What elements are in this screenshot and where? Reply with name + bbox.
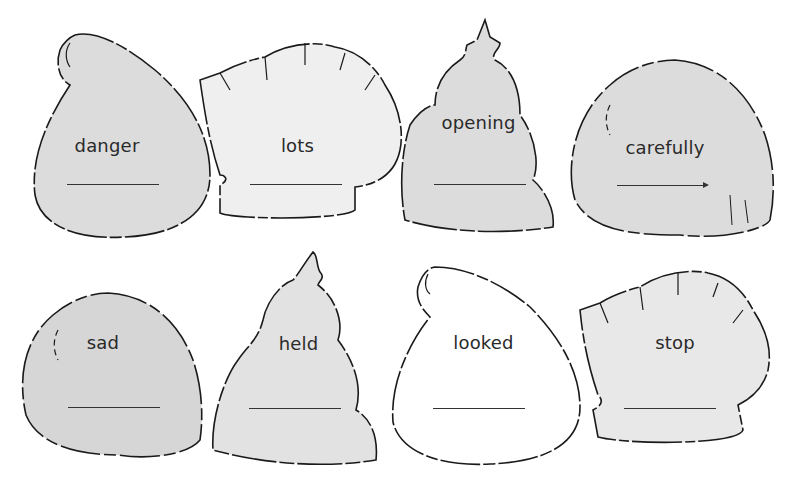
card-mitten-1: lots bbox=[195, 35, 410, 225]
card-round-hat-2: sad bbox=[18, 290, 208, 465]
mitten-shape bbox=[578, 265, 778, 455]
card-beanie-1: opening bbox=[395, 15, 570, 240]
santa-hat-shape bbox=[390, 262, 585, 472]
answer-line[interactable] bbox=[624, 408, 716, 409]
word-label: looked bbox=[386, 332, 581, 353]
word-label: danger bbox=[7, 135, 207, 156]
answer-line[interactable] bbox=[433, 408, 525, 409]
answer-line[interactable] bbox=[617, 185, 705, 186]
card-mitten-2: stop bbox=[578, 265, 778, 455]
arrowhead-icon bbox=[703, 182, 709, 188]
answer-line[interactable] bbox=[68, 407, 160, 408]
card-round-hat-1: carefully bbox=[570, 55, 780, 245]
answer-line[interactable] bbox=[250, 184, 342, 185]
answer-line[interactable] bbox=[67, 184, 159, 185]
word-label: held bbox=[211, 333, 386, 354]
word-label: stop bbox=[575, 332, 775, 353]
answer-line[interactable] bbox=[249, 408, 341, 409]
mitten-shape bbox=[195, 35, 410, 225]
card-santa-hat-2: looked bbox=[390, 262, 585, 472]
word-label: carefully bbox=[560, 137, 770, 158]
card-beanie-2: held bbox=[208, 250, 383, 475]
round-hat-shape bbox=[18, 290, 208, 465]
word-label: lots bbox=[190, 135, 405, 156]
word-label: sad bbox=[8, 332, 198, 353]
answer-line[interactable] bbox=[434, 184, 526, 185]
word-label: opening bbox=[391, 112, 566, 133]
beanie-shape bbox=[208, 250, 383, 475]
card-santa-hat-1: danger bbox=[15, 25, 215, 245]
